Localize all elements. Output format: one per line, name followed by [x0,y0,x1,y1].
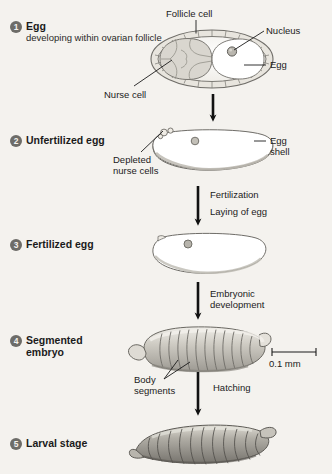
label-nucleus: Nucleus [266,25,300,36]
stage-badge-3: 3 [10,239,22,251]
label-follicle-cell: Follicle cell [166,8,212,19]
stage3-fertilized-egg-illustration [148,230,272,278]
stage-badge-2: 2 [10,135,22,147]
stage-subtitle-1: developing within ovarian follicle [26,32,162,44]
stage-heading-1: 1 Egg developing within ovarian follicle [10,20,162,44]
label-laying-of-egg: Laying of egg [210,206,267,217]
label-fertilization: Fertilization [210,189,259,200]
label-nurse-cell: Nurse cell [104,89,146,100]
stage4-segmented-embryo-illustration [126,322,272,376]
stage-badge-4: 4 [10,335,22,347]
stage-heading-2: 2 Unfertilized egg [10,134,105,147]
stage-badge-5: 5 [10,438,22,450]
stage-heading-4: 4 Segmented embryo [10,334,83,358]
label-egg-shell: Egg shell [270,135,290,157]
label-embryonic-development: Embryonic development [210,288,264,310]
stage2-unfertilized-egg-illustration [148,126,280,174]
label-depleted-nurse-cells: Depleted nurse cells [113,154,158,176]
stage1-follicle-illustration [148,28,276,90]
scale-bar-graphic [272,348,316,356]
label-hatching: Hatching [213,382,251,393]
stage-badge-1: 1 [10,21,22,33]
stage5-larva-illustration [126,418,278,468]
label-body-segments: Body segments [134,374,175,396]
figure-drosophila-development: 1 Egg developing within ovarian follicle… [0,0,332,474]
scale-bar-label: 0.1 mm [269,358,301,369]
stage-heading-5: 5 Larval stage [10,437,87,450]
stage-heading-3: 3 Fertilized egg [10,238,94,251]
stage-title-4: Segmented embryo [26,334,83,358]
label-egg: Egg [270,59,287,70]
stage-title-1: Egg [26,20,162,32]
stage-title-5: Larval stage [26,437,87,449]
stage-title-3: Fertilized egg [26,238,94,250]
stage-title-2: Unfertilized egg [26,134,105,146]
